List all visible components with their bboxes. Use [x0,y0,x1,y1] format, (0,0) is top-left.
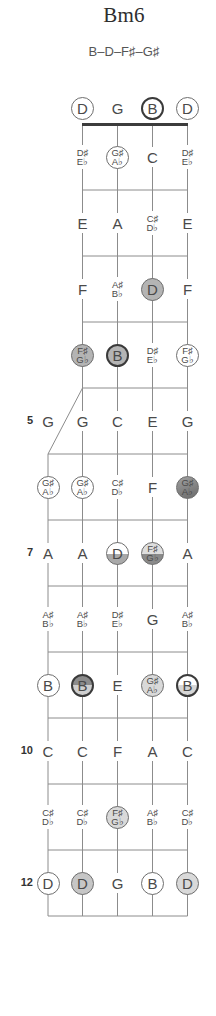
fret-6-string-4-chord-tone: G♯A♭ [71,476,94,499]
fret-number-label: 7 [3,546,33,558]
fret-11-string-2: A♯B♭ [146,805,160,829]
note-label: G [42,414,54,429]
note-label: F [148,480,157,495]
note-label: A♭ [147,685,158,695]
fret-7-string-2-chord-tone: F♯G♭ [141,542,164,565]
note-label: D♭ [147,223,159,233]
fret-4-string-4-chord-tone: F♯G♭ [71,344,94,367]
fret-9-string-4-chord-tone: B [71,674,94,697]
note-label: E♭ [112,619,123,629]
fret-8-string-3: D♯E♭ [111,607,125,631]
fret-10-string-1: C [180,741,196,761]
fret-6-string-3: C♯D♭ [111,475,125,499]
fret-8-string-5: A♯B♭ [41,607,55,631]
fret-7-string-4: A [75,543,91,563]
fret-12-string-1-chord-tone: D [176,872,199,895]
note-label: D♭ [77,817,89,827]
note-label: B [182,678,192,693]
note-label: E♭ [182,157,193,167]
note-label: D [182,101,193,116]
note-label: D♭ [42,817,54,827]
fret-3-string-2-chord-tone: D [141,278,164,301]
note-label: G [112,101,124,116]
fret-6-string-1-chord-tone: G♯A♭ [176,476,199,499]
note-label: B [147,876,157,891]
fret-4-string-3-chord-tone: B [106,344,129,367]
note-label: D [77,101,88,116]
fret-6-string-5-chord-tone: G♯A♭ [37,476,60,499]
fret-2-string-2: C♯D♭ [146,211,160,235]
fret-8-string-2: G [145,609,161,629]
fret-2-string-3: A [110,213,126,233]
fret-4-string-2: D♯E♭ [146,343,160,367]
fret-3-string-4: F [75,279,91,299]
note-label: D [77,876,88,891]
fret-5-string-5: G [40,411,56,431]
fret-10-string-5: C [40,741,56,761]
note-label: E♭ [147,355,158,365]
note-label: D [43,876,54,891]
note-label: A [77,546,87,561]
note-label: F [183,282,192,297]
fret-7-string-5: A [40,543,56,563]
fret-11-string-4: C♯D♭ [76,805,90,829]
fret-11-string-1: C♯D♭ [181,805,195,829]
note-label: E♭ [77,157,88,167]
fret-9-string-2-chord-tone: G♯A♭ [141,674,164,697]
fret-6-string-2: F [145,477,161,497]
note-label: B♭ [77,619,88,629]
fret-1-string-4: D♯E♭ [76,145,90,169]
note-label: A♭ [42,487,53,497]
fret-3-string-3: A♯B♭ [111,277,125,301]
note-label: E [182,216,192,231]
note-label: D [112,546,123,561]
fret-3-string-1: F [180,279,196,299]
note-label: D♭ [182,817,194,827]
fret-12-string-5-chord-tone: D [37,872,60,895]
note-label: A [147,744,157,759]
note-label: A♭ [77,487,88,497]
note-label: D [147,282,158,297]
fret-number-label: 5 [3,414,33,426]
note-label: E [77,216,87,231]
note-label: B [112,348,122,363]
fret-9-string-1-chord-tone: B [176,674,199,697]
fret-5-string-1: G [180,411,196,431]
note-label: E [147,414,157,429]
note-label: B [147,101,157,116]
note-label: A♭ [112,157,123,167]
fret-1-string-2: C [145,147,161,167]
fret-12-string-4-chord-tone: D [71,872,94,895]
fret-11-string-5: C♯D♭ [41,805,55,829]
note-label: B♭ [42,619,53,629]
note-label: B♭ [147,817,158,827]
open-string-3: G [110,98,126,118]
note-label: C [112,414,123,429]
note-label: G [182,414,194,429]
note-label: E [112,678,122,693]
fret-8-string-4: A♯B♭ [76,607,90,631]
note-label: A [112,216,122,231]
fret-4-string-1-chord-tone: F♯G♭ [176,344,199,367]
fret-9-string-3: E [110,675,126,695]
fret-11-string-3-chord-tone: F♯G♭ [106,806,129,829]
fret-number-label: 10 [3,744,33,756]
note-label: G♭ [76,355,88,365]
fret-10-string-4: C [75,741,91,761]
fret-5-string-2: E [145,411,161,431]
fret-12-string-2-chord-tone: B [141,872,164,895]
note-label: A [43,546,53,561]
note-label: G [147,612,159,627]
note-label: G♭ [181,355,193,365]
open-string-1-chord-tone: D [176,97,199,120]
fret-2-string-4: E [75,213,91,233]
fret-number-label: 12 [3,876,33,888]
note-label: D♭ [112,487,124,497]
note-label: B♭ [182,619,193,629]
note-label: C [182,744,193,759]
note-label: A [182,546,192,561]
fret-2-string-1: E [180,213,196,233]
fret-10-string-3: F [110,741,126,761]
fret-1-string-1: D♯E♭ [181,145,195,169]
fret-10-string-2: A [145,741,161,761]
